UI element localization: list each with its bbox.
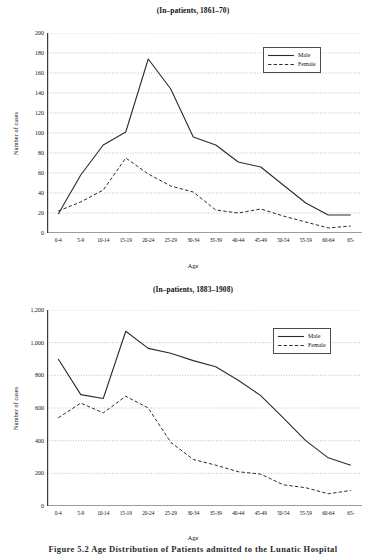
y-tick-label: 140 — [35, 90, 44, 96]
x-tick-label: 65- — [347, 510, 354, 516]
x-tick-label: 40-44 — [232, 510, 244, 516]
legend-item-male: Male — [267, 51, 316, 60]
y-tick-label: 0 — [41, 503, 44, 509]
legend-line-swatch — [267, 52, 295, 59]
y-tick-label: 600 — [35, 405, 44, 411]
y-tick-label: 200 — [35, 30, 44, 36]
x-tick-label: 50-54 — [277, 510, 289, 516]
x-tick-label: 10-14 — [97, 237, 109, 243]
x-tick-label: 60-64 — [322, 237, 334, 243]
legend-line-swatch — [277, 333, 305, 340]
x-tick-label: 25-29 — [165, 237, 177, 243]
x-tick-label: 25-29 — [165, 510, 177, 516]
y-axis-label: Number of cases — [12, 387, 19, 430]
x-axis-label: Age — [0, 262, 386, 269]
x-tick-label: 20-24 — [142, 237, 154, 243]
y-tick-label: 40 — [38, 190, 44, 196]
legend-label: Male — [298, 52, 310, 59]
x-tick-label: 15-19 — [120, 237, 132, 243]
legend-label: Female — [308, 342, 326, 349]
series-line-female — [58, 396, 351, 494]
x-tick-label: 10-14 — [97, 510, 109, 516]
x-tick-label: 45-49 — [255, 510, 267, 516]
y-tick-label: 20 — [38, 210, 44, 216]
y-tick-label: 0 — [41, 230, 44, 236]
y-tick-label: 60 — [38, 170, 44, 176]
x-tick-label: 30-34 — [187, 237, 199, 243]
legend-label: Female — [298, 61, 316, 68]
chart-title: (In–patients, 1883–1908) — [0, 285, 386, 294]
legend-item-female: Female — [277, 341, 326, 350]
y-tick-label: 80 — [38, 150, 44, 156]
y-tick-label: 100 — [35, 130, 44, 136]
x-tick-label: 20-24 — [142, 510, 154, 516]
figure-page: (In–patients, 1861–70) Number of cases 0… — [0, 0, 386, 555]
x-tick-label: 50-54 — [277, 237, 289, 243]
x-tick-label: 35-39 — [210, 237, 222, 243]
x-tick-label: 40-44 — [232, 237, 244, 243]
x-tick-label: 45-49 — [255, 237, 267, 243]
legend-item-male: Male — [277, 332, 326, 341]
x-tick-label: 55-59 — [300, 237, 312, 243]
y-tick-label: 1,200 — [31, 307, 45, 313]
legend: MaleFemale — [273, 328, 331, 354]
legend-item-female: Female — [267, 60, 316, 69]
y-axis-label: Number of cases — [12, 112, 19, 155]
x-tick-label: 5-9 — [77, 237, 84, 243]
x-tick-label: 35-39 — [210, 510, 222, 516]
y-tick-label: 180 — [35, 50, 44, 56]
y-tick-label: 800 — [35, 372, 44, 378]
legend-label: Male — [308, 333, 320, 340]
x-tick-label: 55-59 — [300, 510, 312, 516]
chart-panel-1861-70: (In–patients, 1861–70) Number of cases 0… — [0, 0, 386, 278]
chart-panel-1883-1908: (In–patients, 1883–1908) Number of cases… — [0, 278, 386, 555]
y-tick-label: 200 — [35, 470, 44, 476]
legend-line-swatch — [267, 61, 295, 68]
chart-title: (In–patients, 1861–70) — [0, 6, 386, 15]
series-line-male — [58, 59, 351, 215]
y-tick-label: 400 — [35, 438, 44, 444]
x-tick-label: 65- — [347, 237, 354, 243]
y-tick-label: 160 — [35, 70, 44, 76]
figure-caption: Figure 5.2 Age Distribution of Patients … — [0, 544, 386, 554]
x-tick-label: 0-4 — [55, 510, 62, 516]
y-tick-label: 120 — [35, 110, 44, 116]
legend-line-swatch — [277, 342, 305, 349]
x-axis-label: Age — [0, 534, 386, 541]
x-tick-label: 60-64 — [322, 510, 334, 516]
x-tick-label: 0-4 — [55, 237, 62, 243]
y-tick-label: 1,000 — [31, 340, 45, 346]
legend: MaleFemale — [263, 47, 321, 73]
x-tick-label: 15-19 — [120, 510, 132, 516]
x-tick-label: 30-34 — [187, 510, 199, 516]
x-tick-label: 5-9 — [77, 510, 84, 516]
